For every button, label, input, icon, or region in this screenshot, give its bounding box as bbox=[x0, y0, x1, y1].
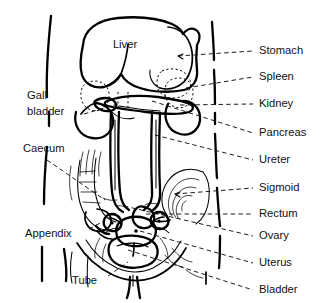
label-kidney: Kidney bbox=[259, 97, 294, 109]
leader-lines-left bbox=[47, 104, 128, 276]
leader-stomach bbox=[178, 51, 253, 56]
label-uterus: Uterus bbox=[259, 256, 292, 268]
body-outline bbox=[42, 16, 220, 284]
leader-caecum bbox=[47, 160, 105, 200]
leader-pancreas bbox=[152, 101, 253, 133]
label-rectum: Rectum bbox=[259, 207, 298, 219]
label-bladder: Bladder bbox=[259, 283, 298, 295]
ureters bbox=[110, 112, 160, 212]
sigmoid-organ bbox=[162, 169, 209, 224]
leader-lines-right bbox=[124, 51, 253, 290]
anatomy-svg: Liver Gall bladder Caecum Appendix Tube … bbox=[0, 0, 324, 303]
leader-sigmoid bbox=[175, 188, 253, 194]
label-spleen: Spleen bbox=[259, 70, 294, 82]
label-ureter: Ureter bbox=[259, 153, 290, 165]
label-appendix: Appendix bbox=[25, 227, 72, 239]
spleen-organ bbox=[157, 69, 191, 98]
label-pancreas: Pancreas bbox=[259, 126, 307, 138]
label-tube: Tube bbox=[72, 274, 97, 286]
label-ovary: Ovary bbox=[259, 229, 289, 241]
label-gall-bladder-line2: bladder bbox=[27, 105, 65, 117]
leader-ureter bbox=[155, 135, 253, 160]
anatomy-diagram: Liver Gall bladder Caecum Appendix Tube … bbox=[0, 0, 324, 303]
label-gall-bladder-line1: Gall bbox=[27, 89, 47, 101]
pelvis-outline bbox=[71, 240, 204, 298]
label-caecum: Caecum bbox=[23, 142, 65, 154]
label-stomach: Stomach bbox=[259, 44, 303, 56]
caecum-organ bbox=[70, 150, 116, 231]
appendix-organ bbox=[96, 226, 112, 239]
organ-label-liver: Liver bbox=[113, 38, 138, 50]
label-sigmoid: Sigmoid bbox=[259, 181, 299, 193]
